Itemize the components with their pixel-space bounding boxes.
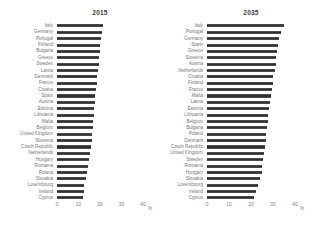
country-label: Hungary bbox=[150, 170, 203, 176]
bar bbox=[57, 56, 99, 59]
country-label: Austria bbox=[150, 61, 203, 67]
bar-row: Belgium bbox=[0, 125, 164, 131]
bar bbox=[207, 31, 281, 34]
country-label: Belgium bbox=[150, 119, 203, 125]
country-label: Finland bbox=[150, 80, 203, 86]
country-label: Latvia bbox=[0, 68, 53, 74]
axis-unit-label: % bbox=[300, 206, 304, 211]
bar bbox=[57, 165, 88, 168]
bar-row: Slovenia bbox=[150, 55, 328, 61]
bar bbox=[57, 177, 86, 180]
bar-row: Austria bbox=[150, 61, 328, 67]
country-label: Spain bbox=[150, 42, 203, 48]
bar-row: Poland bbox=[150, 131, 328, 137]
x-tick-label: 20 bbox=[94, 202, 106, 207]
bar-row: Italy bbox=[0, 23, 164, 29]
bar bbox=[207, 94, 271, 97]
country-label: Italy bbox=[150, 23, 203, 29]
bar bbox=[57, 126, 93, 129]
bar bbox=[57, 94, 95, 97]
country-label: Austria bbox=[0, 99, 53, 105]
bar-row: Romania bbox=[0, 163, 164, 169]
bar-row: Luxembourg bbox=[0, 182, 164, 188]
country-label: Spain bbox=[0, 93, 53, 99]
bar-row: Portugal bbox=[150, 29, 328, 35]
bar-row: Greece bbox=[150, 48, 328, 54]
bar-row: Bulgaria bbox=[0, 48, 164, 54]
bar bbox=[207, 145, 265, 148]
country-label: Italy bbox=[0, 23, 53, 29]
bar-row: Lithuania bbox=[0, 112, 164, 118]
bar-row: Croatia bbox=[150, 74, 328, 80]
bar-row: Bulgaria bbox=[150, 125, 328, 131]
bar bbox=[57, 152, 90, 155]
bar-row: Germany bbox=[0, 29, 164, 35]
country-label: Czech Republic bbox=[0, 144, 53, 150]
bar bbox=[57, 88, 96, 91]
bar-row: Sweden bbox=[150, 157, 328, 163]
bar-row: Czech Republic bbox=[0, 144, 164, 150]
country-label: Belgium bbox=[0, 125, 53, 131]
bar-row: Cyprus bbox=[150, 195, 328, 201]
bar-row: France bbox=[150, 87, 328, 93]
bar-row: Greece bbox=[0, 55, 164, 61]
bar bbox=[57, 158, 89, 161]
bar-row: Slovenia bbox=[0, 138, 164, 144]
bar bbox=[207, 184, 258, 187]
bar-row: Luxembourg bbox=[150, 182, 328, 188]
bar bbox=[57, 101, 95, 104]
bar bbox=[207, 50, 277, 53]
x-tick-label: 30 bbox=[116, 202, 128, 207]
bar bbox=[207, 56, 276, 59]
country-label: Denmark bbox=[0, 74, 53, 80]
bar bbox=[207, 196, 254, 199]
bar-row: Slovakia bbox=[0, 176, 164, 182]
country-label: Malta bbox=[0, 119, 53, 125]
bar bbox=[207, 63, 276, 66]
country-label: Luxembourg bbox=[150, 182, 203, 188]
country-label: Malta bbox=[150, 93, 203, 99]
bar-row: Malta bbox=[150, 93, 328, 99]
bar bbox=[207, 126, 267, 129]
country-label: Ireland bbox=[150, 189, 203, 195]
bar-row: Czech Republic bbox=[150, 144, 328, 150]
country-label: Germany bbox=[150, 36, 203, 42]
bar-row: Finland bbox=[150, 80, 328, 86]
bar-row: Latvia bbox=[150, 99, 328, 105]
bar bbox=[57, 184, 84, 187]
x-tick-label: 10 bbox=[73, 202, 85, 207]
figure: 2015 ItalyGermanyPortugalFinlandBulgaria… bbox=[0, 0, 328, 232]
bar bbox=[207, 37, 279, 40]
country-label: Netherlands bbox=[0, 150, 53, 156]
bar-row: Sweden bbox=[0, 61, 164, 67]
bar bbox=[57, 145, 91, 148]
bar bbox=[57, 120, 93, 123]
bar-row: Austria bbox=[0, 99, 164, 105]
country-label: Sweden bbox=[0, 61, 53, 67]
bar-row: Denmark bbox=[0, 74, 164, 80]
bar bbox=[207, 24, 284, 27]
country-label: Portugal bbox=[150, 29, 203, 35]
bar bbox=[207, 120, 268, 123]
bar bbox=[207, 114, 268, 117]
country-label: Bulgaria bbox=[0, 48, 53, 54]
bar bbox=[207, 107, 269, 110]
bar-row: Portugal bbox=[0, 36, 164, 42]
country-label: Portugal bbox=[0, 36, 53, 42]
chart-2035: 2035 ItalyPortugalGermanySpainGreeceSlov… bbox=[150, 0, 328, 232]
chart-2015: 2015 ItalyGermanyPortugalFinlandBulgaria… bbox=[0, 0, 164, 232]
bar bbox=[57, 171, 87, 174]
bar bbox=[57, 69, 98, 72]
country-label: Romania bbox=[150, 163, 203, 169]
bar bbox=[57, 63, 99, 66]
country-label: United Kingdom bbox=[150, 150, 203, 156]
bar-row: Romania bbox=[150, 163, 328, 169]
bar bbox=[207, 69, 275, 72]
country-label: Luxembourg bbox=[0, 182, 53, 188]
bar-row: Poland bbox=[0, 170, 164, 176]
x-axis-2015: 010203040% bbox=[0, 202, 164, 216]
bar-row: United Kingdom bbox=[0, 131, 164, 137]
bar-row: Hungary bbox=[150, 170, 328, 176]
bar-row: Croatia bbox=[0, 87, 164, 93]
bar-row: Netherlands bbox=[150, 68, 328, 74]
